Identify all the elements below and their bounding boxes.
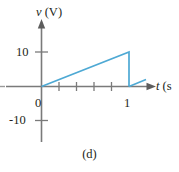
y-axis-label-symbol: v [36,5,42,19]
x-axis-label-unit: (s [163,79,172,93]
x-axis-arrowhead [147,83,157,90]
x-axis-label: t (s [156,80,172,93]
y-axis-arrowhead [38,19,45,29]
figure-caption: (d) [0,148,179,161]
waveform-sawtooth-cycle [42,52,130,87]
y-axis-label-unit: (V) [45,5,62,19]
y-tick-label-10: 10 [16,46,29,59]
x-tick-label-0: 0 [35,97,41,110]
y-axis-label: v (V) [36,6,62,19]
figure-panel-d: v (V) t (s 10 -10 0 1 (d) [0,0,179,172]
y-tick-label-neg10: -10 [9,114,26,127]
x-tick-label-1: 1 [124,97,130,110]
waveform-next-cycle-ramp [129,80,146,87]
x-axis-label-symbol: t [156,79,159,93]
